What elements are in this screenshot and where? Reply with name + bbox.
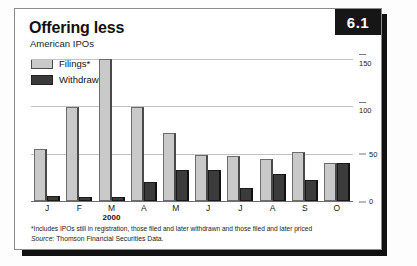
bar-filings-A — [260, 159, 273, 201]
bar-filings-M — [99, 59, 112, 202]
year-spacer — [128, 213, 160, 222]
year-label: 2000 — [95, 213, 127, 222]
bar-withdrawals-O — [337, 163, 350, 201]
bar-group — [95, 49, 127, 201]
bar-withdrawals-J — [208, 170, 221, 201]
bar-group — [321, 49, 353, 201]
year-spacer — [31, 213, 63, 222]
chart-subtitle: American IPOs — [30, 38, 94, 49]
y-tick-100: 100 — [359, 97, 381, 115]
year-spacer — [224, 213, 256, 222]
bar-filings-A — [131, 107, 144, 201]
x-label-A: A — [256, 203, 288, 213]
year-spacer — [321, 213, 353, 222]
year-spacer — [289, 213, 321, 222]
bar-filings-F — [66, 107, 79, 201]
bar-withdrawals-S — [305, 180, 318, 201]
plot-area — [31, 49, 353, 201]
x-label-M: M — [95, 203, 127, 213]
year-spacer — [256, 213, 288, 222]
chart-card: 6.1 Offering less American IPOs Filings*… — [14, 8, 382, 250]
bar-withdrawals-F — [79, 197, 92, 201]
x-axis-labels: JFMAMJJASO — [31, 203, 353, 213]
card-shadow-bottom — [22, 249, 387, 256]
x-label-J: J — [31, 203, 63, 213]
x-label-O: O — [321, 203, 353, 213]
x-axis-year-label: 2000 — [31, 213, 353, 222]
year-spacer — [63, 213, 95, 222]
bar-withdrawals-J — [47, 196, 60, 201]
bar-withdrawals-M — [112, 197, 125, 201]
bar-group — [128, 49, 160, 201]
y-tick-50: 50 — [359, 149, 377, 158]
bar-group — [160, 49, 192, 201]
bar-filings-S — [292, 152, 305, 201]
x-label-S: S — [289, 203, 321, 213]
bar-withdrawals-A — [144, 182, 157, 201]
bar-group — [289, 49, 321, 201]
chart-footnote: *Includes IPOs still in registration, th… — [31, 225, 312, 232]
bar-filings-J — [227, 156, 240, 201]
bar-filings-O — [324, 163, 337, 201]
bar-group — [192, 49, 224, 201]
bar-groups — [31, 49, 353, 201]
source-prefix: Source: — [31, 235, 54, 242]
bar-filings-M — [163, 133, 176, 201]
bar-group — [31, 49, 63, 201]
y-tick-0: 0 — [359, 197, 373, 206]
x-label-F: F — [63, 203, 95, 213]
year-spacer — [160, 213, 192, 222]
bar-group — [63, 49, 95, 201]
x-label-J: J — [224, 203, 256, 213]
chart-source: Source: Thomson Financial Securities Dat… — [31, 235, 164, 242]
bar-withdrawals-J — [240, 188, 253, 201]
x-label-M: M — [160, 203, 192, 213]
bar-group — [224, 49, 256, 201]
chart-page: 6.1 Offering less American IPOs Filings*… — [0, 0, 417, 266]
chart-title: Offering less — [29, 19, 124, 37]
figure-number-badge: 6.1 — [335, 9, 381, 35]
bar-group — [256, 49, 288, 201]
bar-withdrawals-A — [273, 174, 286, 201]
x-label-J: J — [192, 203, 224, 213]
bar-filings-J — [34, 149, 47, 201]
bar-withdrawals-M — [176, 170, 189, 201]
x-label-A: A — [128, 203, 160, 213]
y-tick-150: 150 — [359, 50, 381, 68]
year-spacer — [192, 213, 224, 222]
gridline-0 — [31, 201, 353, 202]
bar-filings-J — [195, 155, 208, 201]
source-text: Thomson Financial Securities Data. — [56, 235, 163, 242]
